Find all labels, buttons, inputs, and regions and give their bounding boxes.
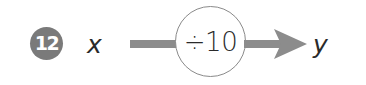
operation-circle: ÷10 xyxy=(175,6,246,77)
problem-number: 12 xyxy=(35,32,58,54)
problem-number-badge: 12 xyxy=(30,27,63,60)
input-connector-line xyxy=(130,40,178,48)
output-variable: y xyxy=(313,32,328,57)
right-arrow-icon xyxy=(244,26,308,62)
input-variable: x xyxy=(87,32,102,57)
operation-label: ÷10 xyxy=(176,7,245,76)
